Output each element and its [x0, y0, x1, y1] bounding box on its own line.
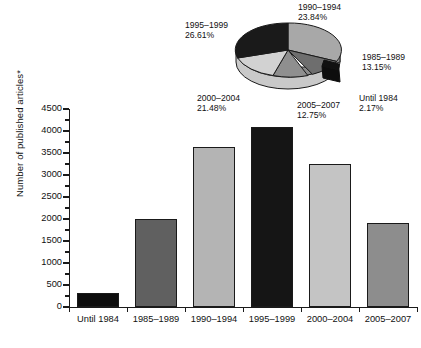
x-axis-tick-label: 1995–1999	[243, 314, 301, 324]
y-axis-tick-label: 0	[0, 301, 62, 311]
pie-label-1995-1999-pct: 26.61%	[185, 30, 228, 40]
x-axis-tick	[127, 307, 128, 312]
y-axis-tick-labels: 050010001500200025003000350040004500	[0, 0, 62, 348]
pie-label-until-1984-name: Until 1984	[359, 93, 398, 103]
pie-label-1985-1989: 1985–1989 13.15%	[362, 52, 405, 73]
x-axis-tick-label: 2005–2007	[359, 314, 417, 324]
y-axis-tick-label: 3500	[0, 147, 62, 157]
bar-plot-area	[69, 109, 417, 307]
pie-label-1995-1999: 1995–1999 26.61%	[185, 20, 228, 41]
y-axis-tick-label: 4500	[0, 103, 62, 113]
x-axis-tick-label: Until 1984	[69, 314, 127, 324]
x-axis-tick-labels: Until 19841985–19891990–19941995–1999200…	[69, 314, 417, 330]
bar-1995-1999	[251, 127, 294, 307]
bar-1985-1989	[135, 219, 178, 307]
pie-label-1985-1989-pct: 13.15%	[362, 62, 405, 72]
bar-2000-2004	[309, 164, 352, 307]
y-axis-tick-label: 4000	[0, 125, 62, 135]
pie-label-2000-2004-name: 2000–2004	[197, 93, 240, 103]
y-axis-tick-label: 2500	[0, 191, 62, 201]
x-axis-tick	[185, 307, 186, 312]
y-axis-tick-label: 2000	[0, 213, 62, 223]
x-axis-tick	[243, 307, 244, 312]
bar-1990-1994	[193, 147, 236, 307]
x-axis-tick	[69, 307, 70, 312]
x-axis-tick	[417, 307, 418, 312]
bar-2005-2007	[367, 223, 410, 307]
pie-label-1985-1989-name: 1985–1989	[362, 52, 405, 62]
pie-slice-until-1984	[322, 60, 340, 82]
y-axis-tick-label: 1000	[0, 257, 62, 267]
pie-label-1990-1994-pct: 23.84%	[298, 12, 341, 22]
x-axis-tick	[359, 307, 360, 312]
y-axis-tick-label: 500	[0, 279, 62, 289]
x-axis-tick	[301, 307, 302, 312]
pie-label-1990-1994: 1990–1994 23.84%	[298, 2, 341, 23]
pie-label-1990-1994-name: 1990–1994	[298, 2, 341, 12]
bar-until-1984	[77, 293, 120, 307]
x-axis-tick-label: 2000–2004	[301, 314, 359, 324]
chart-figure: 1990–1994 23.84% 1995–1999 26.61% 1985–1…	[0, 0, 421, 348]
y-axis-tick-label: 1500	[0, 235, 62, 245]
pie-label-1995-1999-name: 1995–1999	[185, 20, 228, 30]
y-axis-tick-label: 3000	[0, 169, 62, 179]
x-axis-tick-label: 1985–1989	[127, 314, 185, 324]
x-axis-tick-label: 1990–1994	[185, 314, 243, 324]
